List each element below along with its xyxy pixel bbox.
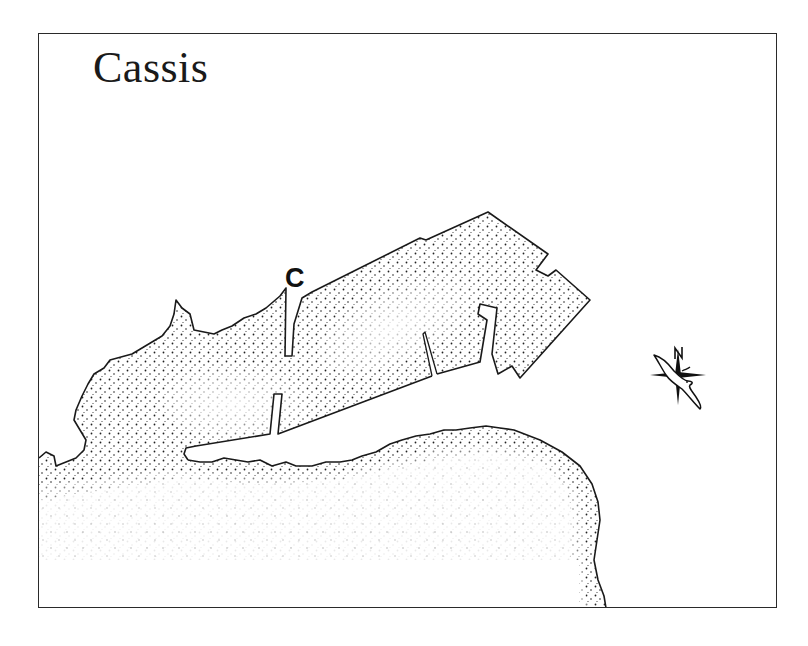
location-marker-c[interactable]: C — [285, 263, 305, 294]
map-title: Cassis — [93, 42, 208, 93]
harbor-map — [0, 0, 808, 646]
compass-rose-icon — [650, 347, 706, 409]
